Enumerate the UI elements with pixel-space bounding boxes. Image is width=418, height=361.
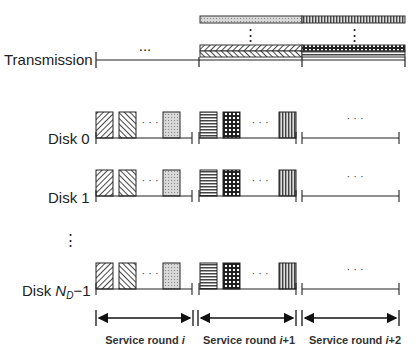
- ellipsis: · · ·: [346, 170, 363, 182]
- data-block: [223, 112, 240, 138]
- transmission-stack: [200, 45, 405, 57]
- data-block: [279, 170, 296, 196]
- service-round-label-i-plus-2: Service round i+2: [309, 334, 401, 346]
- data-block: [200, 263, 217, 289]
- transmission-queue-bar: [200, 16, 405, 23]
- disk-timeline: · · ·· · ·· · ·: [96, 263, 399, 295]
- ellipsis: · · ·: [251, 267, 268, 279]
- data-block: [163, 112, 180, 138]
- ellipsis: · · ·: [346, 263, 363, 275]
- disk-blocks: · · ·· · ·· · ·· · ·· · ·· · ·· · ·· · ·…: [96, 112, 399, 295]
- disk-timeline: · · ·· · ·· · ·: [96, 112, 399, 144]
- disk-scheduling-diagram: ⋮ ⋮ Transmission ... Disk 0 Disk 1 ⋮ Dis…: [0, 0, 418, 361]
- disk-row-0: Disk 0: [48, 130, 90, 147]
- data-block: [223, 263, 240, 289]
- ellipsis: ...: [139, 37, 152, 54]
- ellipsis: · · ·: [141, 116, 158, 128]
- data-block: [119, 112, 136, 138]
- data-block: [200, 112, 217, 138]
- service-round-label-i: Service round i: [105, 334, 185, 346]
- disk-label: Disk 0: [48, 130, 90, 147]
- data-block: [279, 112, 296, 138]
- data-block: [279, 263, 296, 289]
- data-block: [163, 170, 180, 196]
- disk-label: Disk 1: [48, 189, 90, 206]
- vertical-ellipsis: ⋮: [347, 26, 362, 43]
- ellipsis: · · ·: [141, 174, 158, 186]
- data-block: [163, 263, 180, 289]
- data-block: [119, 263, 136, 289]
- data-block: [119, 170, 136, 196]
- data-block: [96, 112, 113, 138]
- data-block: [96, 170, 113, 196]
- data-block: [96, 263, 113, 289]
- vertical-ellipsis: ⋮: [63, 231, 78, 248]
- ellipsis: · · ·: [251, 174, 268, 186]
- disk-row-1: Disk 1: [48, 189, 90, 206]
- ellipsis: · · ·: [346, 112, 363, 124]
- data-block: [223, 170, 240, 196]
- service-round-label-i-plus-1: Service round i+1: [203, 334, 295, 346]
- transmission-label: Transmission: [4, 51, 93, 68]
- ellipsis: · · ·: [141, 267, 158, 279]
- disk-timeline: · · ·· · ·· · ·: [96, 170, 399, 202]
- disk-label: Disk ND−1: [22, 282, 91, 301]
- service-round-arrows: [96, 310, 399, 326]
- disk-row-nd: Disk ND−1: [22, 282, 91, 301]
- ellipsis: · · ·: [251, 116, 268, 128]
- vertical-ellipsis: ⋮: [243, 26, 258, 43]
- data-block: [200, 170, 217, 196]
